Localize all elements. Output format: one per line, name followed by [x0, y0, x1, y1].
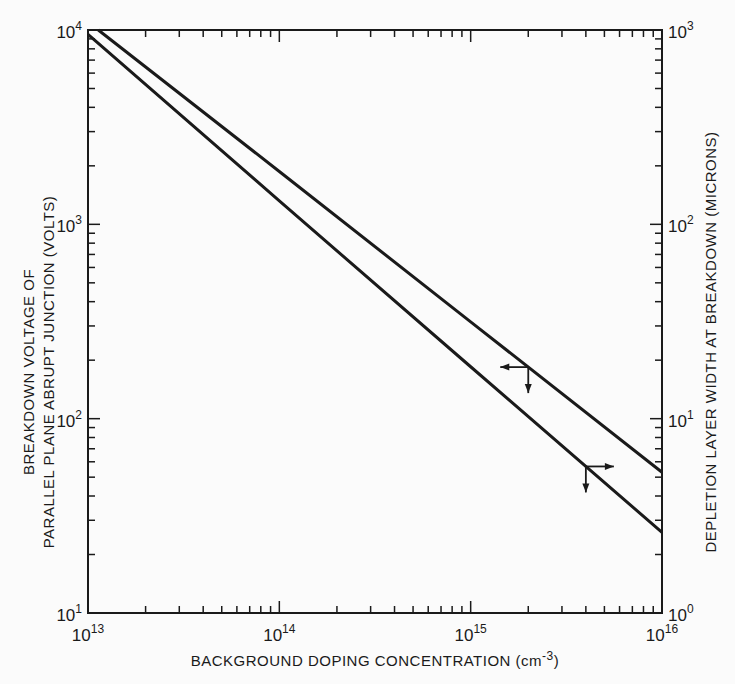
x-axis-title: BACKGROUND DOPING CONCENTRATION (cm-3) — [191, 649, 560, 669]
chart: 1013101410151016104103102101103102101100… — [0, 0, 735, 684]
axis-ticks — [88, 30, 662, 613]
y-left-tick-label: 104 — [56, 19, 82, 42]
y-left-tick-label: 101 — [56, 602, 82, 625]
y-left-tick-label: 103 — [56, 213, 82, 236]
y-right-tick-label: 103 — [668, 19, 694, 42]
plot-frame — [88, 30, 662, 613]
down-arrow-icon-head — [582, 483, 589, 492]
tick-labels: 1013101410151016104103102101103102101100 — [56, 19, 694, 645]
x-tick-label: 1014 — [263, 622, 296, 645]
y-left-axis-title-line1: BREAKDOWN VOLTAGE OF — [20, 269, 37, 475]
breakdown-voltage-line — [98, 30, 662, 472]
left-arrow-icon-head — [500, 364, 509, 371]
x-tick-label: 1016 — [646, 622, 679, 645]
y-right-tick-label: 101 — [668, 408, 694, 431]
x-tick-label: 1015 — [455, 622, 488, 645]
y-left-axis-title-line2: PARALLEL PLANE ABRUPT JUNCTION (VOLTS) — [40, 196, 57, 549]
y-right-axis-title: DEPLETION LAYER WIDTH AT BREAKDOWN (MICR… — [702, 131, 719, 552]
y-right-tick-label: 102 — [668, 213, 694, 236]
x-tick-label: 1013 — [72, 622, 105, 645]
y-right-tick-label: 100 — [668, 602, 694, 625]
y-left-tick-label: 102 — [56, 408, 82, 431]
data-lines — [88, 30, 662, 532]
right-arrow-icon-head — [605, 463, 614, 470]
down-arrow-icon-head — [525, 384, 532, 393]
depletion-width-line — [88, 34, 662, 532]
axis-indicator-arrows — [500, 364, 614, 493]
